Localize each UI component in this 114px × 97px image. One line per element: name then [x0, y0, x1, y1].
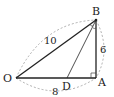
measure-ob: 10: [44, 35, 57, 46]
label-b: B: [92, 5, 100, 18]
angle-mark-dba: [93, 28, 96, 29]
label-d: D: [62, 80, 71, 93]
segment-ob: [16, 20, 96, 78]
point-b-dot: [95, 19, 98, 22]
label-a: A: [97, 76, 107, 89]
angle-mark-obd: [90, 24, 93, 26]
label-o: O: [3, 72, 12, 85]
measure-ab: 6: [100, 44, 106, 55]
measure-oa: 8: [52, 86, 58, 97]
segment-bd: [67, 20, 96, 78]
triangle-diagram: B O D A 10 6 8: [0, 0, 114, 97]
right-angle-mark: [91, 73, 96, 78]
